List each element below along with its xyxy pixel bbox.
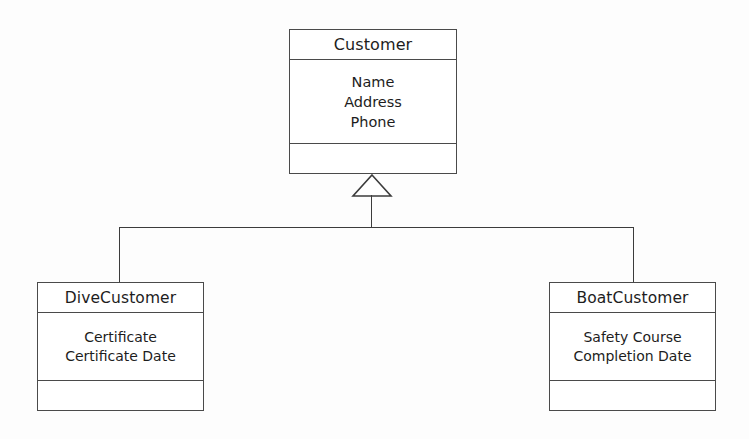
class-name-boatcustomer: BoatCustomer [550, 283, 715, 313]
class-attributes-boatcustomer: Safety Course Completion Date [550, 313, 715, 381]
class-operations-customer [290, 144, 456, 173]
class-operations-divecustomer [38, 381, 203, 410]
generalization-horizontal-line [119, 227, 634, 228]
attribute-item: Certificate [84, 328, 157, 347]
class-operations-boatcustomer [550, 381, 715, 410]
attribute-item: Phone [351, 112, 396, 132]
class-attributes-divecustomer: Certificate Certificate Date [38, 313, 203, 381]
generalization-drop-line-left [119, 227, 120, 283]
attribute-item: Name [352, 72, 395, 92]
attribute-item: Certificate Date [65, 347, 176, 366]
class-box-divecustomer[interactable]: DiveCustomer Certificate Certificate Dat… [37, 282, 204, 411]
class-box-boatcustomer[interactable]: BoatCustomer Safety Course Completion Da… [549, 282, 716, 411]
generalization-triangle-icon [349, 172, 395, 197]
attribute-item: Safety Course [583, 328, 681, 347]
attribute-item: Completion Date [573, 347, 691, 366]
class-name-customer: Customer [290, 30, 456, 60]
class-attributes-customer: Name Address Phone [290, 60, 456, 144]
class-box-customer[interactable]: Customer Name Address Phone [289, 29, 457, 174]
attribute-item: Address [344, 92, 402, 112]
uml-class-diagram-canvas: Customer Name Address Phone DiveCustomer… [0, 0, 749, 439]
class-name-divecustomer: DiveCustomer [38, 283, 203, 313]
generalization-stem-line [371, 195, 372, 228]
generalization-drop-line-right [633, 227, 634, 283]
